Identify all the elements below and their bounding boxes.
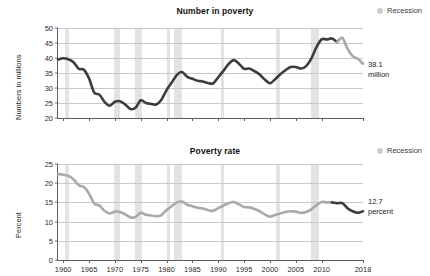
x-tick-label: 2000 [262,265,279,274]
x-tick-mark [89,118,90,121]
x-tick-mark [89,260,90,263]
recession-dot-icon [377,8,383,14]
x-tick-label: 1965 [81,265,98,274]
panel-number-in-poverty: Number in poverty Recession Numbers in m… [0,0,430,140]
series-line [332,202,363,212]
x-axis-line [57,260,363,261]
annotation-38-1-million: 38.1 million [368,60,389,79]
annotation-12-7-percent: 12.7 percent [368,197,393,216]
y-tick-label: 15 [45,198,53,207]
x-tick-label: 2018 [355,265,372,274]
y-tick-label: 20 [45,179,53,188]
x-axis-line [57,118,363,119]
x-tick-label: 2005 [287,265,304,274]
y-tick-label: 25 [45,160,53,169]
x-tick-mark [363,260,364,263]
y-tick-label: 35 [45,69,53,78]
x-tick-mark [167,260,168,263]
x-tick-mark [218,118,219,121]
x-tick-mark [141,260,142,263]
x-tick-mark [218,260,219,263]
x-tick-label: 1960 [55,265,72,274]
y-tick-label: 25 [45,99,53,108]
recession-dot-icon [377,148,383,154]
series-layer [58,28,363,118]
x-tick-mark [322,260,323,263]
x-tick-mark [270,118,271,121]
legend-bottom: Recession [377,146,422,155]
x-tick-mark [63,260,64,263]
x-tick-mark [115,118,116,121]
chart-title-poverty-rate: Poverty rate [0,146,430,156]
y-tick-label: 0 [49,256,53,265]
x-tick-mark [63,118,64,121]
legend-label-recession: Recession [387,146,422,155]
y-tick-label: 40 [45,54,53,63]
x-tick-mark [296,118,297,121]
x-tick-label: 1975 [132,265,149,274]
y-tick-label: 10 [45,217,53,226]
y-axis-title-top: Numbers in millions [14,55,23,120]
x-tick-label: 1990 [210,265,227,274]
x-tick-mark [192,118,193,121]
x-tick-mark [192,260,193,263]
legend-top: Recession [377,6,422,15]
y-tick-label: 30 [45,84,53,93]
y-tick-label: 5 [49,236,53,245]
series-line [58,174,332,218]
chart-title-number-in-poverty: Number in poverty [0,6,430,16]
y-tick-label: 20 [45,114,53,123]
x-tick-mark [296,260,297,263]
y-axis-title-bottom: Percent [14,212,23,238]
x-tick-mark [115,260,116,263]
poverty-figure: Number in poverty Recession Numbers in m… [0,0,430,276]
panel-poverty-rate: Poverty rate Recession Percent 051015202… [0,140,430,276]
series-line [58,38,337,109]
plot-area-poverty-rate: 0510152025196019651970197519801985199019… [58,164,363,260]
y-tick-label: 50 [45,24,53,33]
legend-label-recession: Recession [387,6,422,15]
x-tick-mark [270,260,271,263]
x-tick-mark [244,118,245,121]
x-tick-mark [322,118,323,121]
x-tick-mark [244,260,245,263]
x-tick-mark [141,118,142,121]
x-tick-label: 2010 [313,265,330,274]
x-tick-label: 1980 [158,265,175,274]
y-tick-label: 45 [45,39,53,48]
x-tick-mark [167,118,168,121]
x-tick-label: 1970 [107,265,124,274]
x-tick-label: 1985 [184,265,201,274]
series-layer [58,164,363,260]
x-tick-label: 1995 [236,265,253,274]
x-tick-mark [363,118,364,121]
plot-area-number-in-poverty: 20253035404550 [58,28,363,118]
series-line [337,38,363,64]
